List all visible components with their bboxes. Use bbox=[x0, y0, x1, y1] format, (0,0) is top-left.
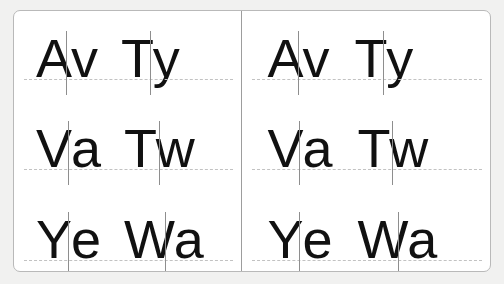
kern-pair-strip: Y e W a bbox=[242, 200, 490, 260]
glyph-second: a bbox=[174, 218, 203, 260]
baseline-guide bbox=[252, 79, 482, 80]
kern-tick-icon bbox=[398, 212, 399, 272]
kern-pair-av[interactable]: A v bbox=[36, 37, 97, 79]
glyph-second: y bbox=[153, 37, 179, 79]
glyph-second: a bbox=[71, 127, 100, 169]
kern-pair-va[interactable]: V a bbox=[36, 127, 100, 169]
kern-pair-wa[interactable]: W a bbox=[357, 218, 436, 260]
baseline-guide bbox=[252, 260, 482, 261]
kerning-specimen-card: A v T y V a T bbox=[13, 10, 491, 272]
kern-pair-strip: V a T w bbox=[14, 109, 241, 169]
glyph-second: v bbox=[71, 37, 97, 79]
kern-row: Y e W a bbox=[242, 200, 490, 272]
kern-tick-icon bbox=[298, 31, 299, 95]
glyph-second: a bbox=[302, 127, 331, 169]
kern-row: V a T w bbox=[242, 109, 490, 195]
kern-tick-icon bbox=[159, 121, 160, 185]
kern-tick-icon bbox=[165, 212, 166, 272]
kern-pair-ye[interactable]: Y e bbox=[268, 218, 332, 260]
kern-tick-icon bbox=[66, 31, 67, 95]
kern-tick-icon bbox=[150, 31, 151, 95]
glyph-second: a bbox=[407, 218, 436, 260]
kern-row: V a T w bbox=[14, 109, 241, 195]
kern-pair-strip: Y e W a bbox=[14, 200, 241, 260]
glyph-first: T bbox=[354, 37, 386, 79]
kern-pair-tw[interactable]: T w bbox=[124, 127, 194, 169]
kern-tick-icon bbox=[383, 31, 384, 95]
kern-row: A v T y bbox=[242, 19, 490, 105]
baseline-guide bbox=[252, 169, 482, 170]
glyph-first: W bbox=[124, 218, 174, 260]
kern-pair-ty[interactable]: T y bbox=[121, 37, 179, 79]
glyph-second: w bbox=[389, 127, 427, 169]
kern-pair-av[interactable]: A v bbox=[268, 37, 329, 79]
kern-pair-strip: A v T y bbox=[242, 19, 490, 79]
glyph-first: Y bbox=[36, 218, 71, 260]
glyph-first: Y bbox=[268, 218, 303, 260]
glyph-second: v bbox=[302, 37, 328, 79]
specimen-panel-right: A v T y V a T bbox=[242, 11, 490, 271]
kern-tick-icon bbox=[299, 212, 300, 272]
kern-tick-icon bbox=[68, 212, 69, 272]
kern-row: Y e W a bbox=[14, 200, 241, 272]
glyph-first: T bbox=[124, 127, 156, 169]
specimen-panel-left: A v T y V a T bbox=[14, 11, 241, 271]
glyph-first: V bbox=[36, 127, 71, 169]
baseline-guide bbox=[24, 260, 233, 261]
kern-tick-icon bbox=[299, 121, 300, 185]
glyph-second: y bbox=[386, 37, 412, 79]
glyph-first: T bbox=[121, 37, 153, 79]
kern-pair-wa[interactable]: W a bbox=[124, 218, 203, 260]
kern-pair-strip: A v T y bbox=[14, 19, 241, 79]
baseline-guide bbox=[24, 79, 233, 80]
kern-row: A v T y bbox=[14, 19, 241, 105]
kern-pair-strip: V a T w bbox=[242, 109, 490, 169]
kern-pair-va[interactable]: V a bbox=[268, 127, 332, 169]
glyph-second: e bbox=[302, 218, 331, 260]
kern-pair-ty[interactable]: T y bbox=[354, 37, 412, 79]
kern-pair-ye[interactable]: Y e bbox=[36, 218, 100, 260]
baseline-guide bbox=[24, 169, 233, 170]
kern-tick-icon bbox=[68, 121, 69, 185]
glyph-second: w bbox=[156, 127, 194, 169]
glyph-first: V bbox=[268, 127, 303, 169]
glyph-first: W bbox=[357, 218, 407, 260]
glyph-second: e bbox=[71, 218, 100, 260]
kern-tick-icon bbox=[392, 121, 393, 185]
glyph-first: T bbox=[357, 127, 389, 169]
kern-pair-tw[interactable]: T w bbox=[357, 127, 427, 169]
